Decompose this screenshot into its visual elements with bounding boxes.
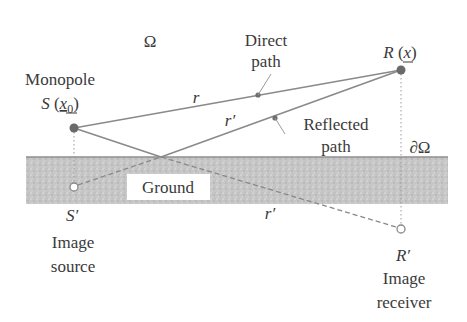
image-source-diagram: Ground Ω ∂Ω Monopole S (x0) R (x) Direct… (0, 0, 467, 322)
reflected-path-label-line2: path (321, 137, 351, 156)
image-source-label-line2: source (51, 257, 95, 276)
image-source-label-line1: Image (52, 233, 94, 252)
image-source-symbol: S′ (66, 206, 79, 225)
monopole-label: Monopole (25, 70, 95, 89)
image-distance-label: r′ (265, 204, 276, 223)
image-receiver-label-line1: Image (383, 269, 425, 288)
direct-distance-label: r (193, 88, 200, 107)
boundary-label: ∂Ω (409, 138, 430, 157)
direct-path-label-line1: Direct (245, 31, 288, 50)
ground-label: Ground (142, 178, 194, 197)
receiver-label: R (x) (382, 43, 417, 62)
reflected-path-outgoing (161, 70, 401, 157)
reflected-path-incident (74, 128, 161, 157)
image-source-dot (70, 183, 78, 191)
direct-path-leader (258, 74, 271, 95)
reflected-distance-label: r′ (225, 111, 236, 130)
image-receiver-dot (397, 225, 405, 233)
domain-omega-label: Ω (144, 32, 157, 51)
receiver-dot (397, 66, 406, 75)
reflected-path-label-line1: Reflected (303, 115, 369, 134)
image-receiver-label-line2: receiver (377, 293, 432, 312)
image-receiver-symbol: R′ (395, 246, 410, 265)
direct-path-label-line2: path (251, 52, 281, 71)
reflected-path-leader (275, 118, 285, 134)
ground-layer (26, 157, 448, 204)
source-dot (70, 124, 79, 133)
